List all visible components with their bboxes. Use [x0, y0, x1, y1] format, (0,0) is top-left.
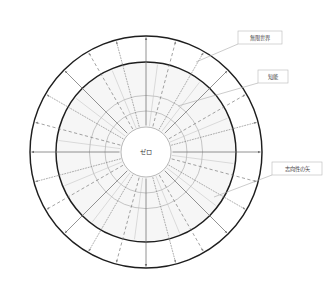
callout-label-intelligence: 知能 — [268, 73, 278, 81]
callout-label-intentionality-arrow: 志向性の矢 — [285, 165, 310, 173]
center-label: ゼロ — [140, 148, 152, 155]
diagram-canvas: ゼロ無限世界知能志向性の矢 — [0, 0, 329, 288]
radial-intentionality-diagram: ゼロ無限世界知能志向性の矢 — [0, 0, 329, 288]
callout-label-infinite-world: 無限世界 — [250, 34, 270, 42]
